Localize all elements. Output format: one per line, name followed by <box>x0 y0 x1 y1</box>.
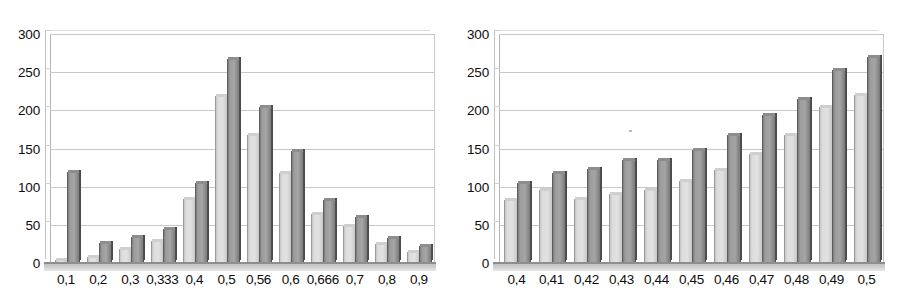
x-axis-tick-label: 0,43 <box>604 272 639 296</box>
bar-series-1 <box>151 242 162 263</box>
x-axis-tick-label: 0,8 <box>371 272 403 296</box>
x-axis-tick-label: 0,49 <box>814 272 849 296</box>
x-axis-tick-label: 0,666 <box>307 272 339 296</box>
bar-top <box>610 192 622 195</box>
bar-face <box>574 199 588 263</box>
bar-series-1 <box>539 191 551 263</box>
bar-top <box>540 188 552 191</box>
bar-top <box>575 197 587 200</box>
bar-face <box>195 183 208 263</box>
bar-top <box>693 148 705 151</box>
bar-series-1 <box>574 200 586 263</box>
x-axis-tick-label: 0,5 <box>849 272 884 296</box>
x-axis-tick-label: 0,1 <box>50 272 82 296</box>
bar-top <box>518 181 530 184</box>
bar-top <box>216 94 227 97</box>
bar-face <box>819 107 833 263</box>
bar-face <box>762 115 776 263</box>
bar-series-1 <box>784 136 796 263</box>
x-axis-tick-label: 0,41 <box>534 272 569 296</box>
bar-group <box>814 34 849 263</box>
bar-series-1 <box>609 195 621 263</box>
bar-chart-figure: 050100150200250300 0,10,20,30,3330,40,50… <box>0 0 898 305</box>
bar-series-2 <box>99 244 110 263</box>
bar-series-1 <box>644 191 656 263</box>
x-axis-tick-label: 0,9 <box>403 272 435 296</box>
bar-top <box>260 105 271 108</box>
bar-face <box>419 246 432 263</box>
gridline-depth <box>494 30 500 31</box>
bar-top <box>763 113 775 116</box>
bar-group <box>499 34 534 263</box>
bar-face <box>679 181 693 263</box>
x-axis-tick-label: 0,6 <box>275 272 307 296</box>
bar-series-2 <box>622 161 634 263</box>
bar-series-1 <box>183 200 194 263</box>
bar-series-2 <box>131 238 142 263</box>
bar-top <box>292 149 303 152</box>
bar-top <box>420 244 431 247</box>
bar-top <box>164 227 175 230</box>
left-chart-plot-area <box>50 34 435 263</box>
bar-series-2 <box>387 239 398 263</box>
bar-top <box>132 235 143 238</box>
x-axis-tick-label: 0,44 <box>639 272 674 296</box>
bar-series-2 <box>323 201 334 263</box>
bar-group <box>339 34 371 263</box>
bar-series-2 <box>867 58 879 263</box>
x-axis-tick-label: 0,47 <box>744 272 779 296</box>
x-axis-tick-label: 0,3 <box>114 272 146 296</box>
bar-series-1 <box>504 201 516 263</box>
plot-baseline <box>44 262 436 264</box>
bar-group <box>242 34 274 263</box>
bar-top <box>750 152 762 155</box>
right-chart-y-axis: 050100150200250300 <box>449 0 495 305</box>
y-axis-tick-label: 250 <box>18 65 40 80</box>
y-axis-tick-label: 50 <box>474 217 489 232</box>
bar-top <box>680 179 692 182</box>
bar-series-2 <box>195 184 206 263</box>
bar-group <box>779 34 814 263</box>
bar-group <box>744 34 779 263</box>
bar-series-1 <box>819 108 831 263</box>
left-chart-y-axis: 050100150200250300 <box>0 0 46 305</box>
bar-face <box>727 135 741 263</box>
bar-face <box>867 57 881 263</box>
bar-series-1 <box>215 97 226 263</box>
bar-series-1 <box>311 215 322 263</box>
bar-top <box>833 68 845 71</box>
bar-face <box>539 190 553 263</box>
bar-top <box>388 236 399 239</box>
right-chart-x-axis: 0,40,410,420,430,440,450,460,470,480,490… <box>499 272 884 296</box>
bar-top <box>588 167 600 170</box>
bar-series-1 <box>854 96 866 263</box>
y-axis-tick-label: 0 <box>33 256 40 271</box>
bar-series-2 <box>797 100 809 263</box>
x-axis-tick-label: 0,4 <box>178 272 210 296</box>
bar-top <box>820 105 832 108</box>
bar-face <box>227 59 240 263</box>
bar-top <box>120 247 131 250</box>
x-axis-tick-label: 0,7 <box>339 272 371 296</box>
bar-face <box>784 135 798 263</box>
bar-series-2 <box>163 230 174 263</box>
bar-face <box>644 190 658 263</box>
bar-top <box>344 224 355 227</box>
bar-series-2 <box>67 173 78 263</box>
y-axis-tick-label: 300 <box>467 27 489 42</box>
bar-top <box>312 212 323 215</box>
bar-top <box>152 239 163 242</box>
bar-face <box>323 200 336 263</box>
bar-group <box>849 34 884 263</box>
bar-top <box>184 197 195 200</box>
bar-group <box>674 34 709 263</box>
bar-group <box>275 34 307 263</box>
right-chart-plot-area <box>499 34 884 263</box>
bar-series-2 <box>832 71 844 263</box>
bar-series-1 <box>247 136 258 263</box>
y-axis-tick-label: 50 <box>25 217 40 232</box>
bar-group <box>210 34 242 263</box>
bar-top <box>553 171 565 174</box>
x-axis-tick-label: 0,45 <box>674 272 709 296</box>
bar-top <box>280 171 291 174</box>
